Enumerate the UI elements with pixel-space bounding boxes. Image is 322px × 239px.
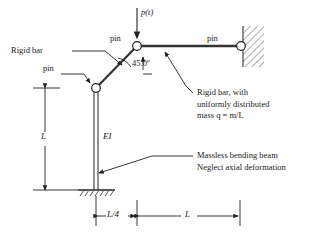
rigid-bar-note-line1: Rigid bar, with xyxy=(197,87,269,99)
dimension-vertical-label: L xyxy=(41,131,46,141)
pin-joint-column-top xyxy=(92,84,101,93)
beam-note: Massless bending beam Neglect axial defo… xyxy=(197,150,286,173)
load-label: p(t) xyxy=(141,7,153,17)
beam-note-line1: Massless bending beam xyxy=(197,150,286,162)
dimension-short-label: L/4 xyxy=(107,209,119,219)
leader-rigid-bar-left xyxy=(72,51,122,65)
column-bending-beam xyxy=(94,92,98,190)
dimension-long-label: L xyxy=(185,209,190,219)
leader-rigid-bar-right xyxy=(165,52,193,93)
dimension-vertical-L xyxy=(33,88,78,190)
wall-support xyxy=(243,26,264,67)
pin-label-apex: pin xyxy=(110,33,121,43)
rigid-bar-left-label: Rigid bar xyxy=(11,45,43,55)
pin-label-column-top: pin xyxy=(43,63,54,73)
pin-joint-apex xyxy=(133,42,142,51)
stiffness-label: EI xyxy=(103,131,112,141)
pin-joint-wall xyxy=(237,42,246,51)
pin-label-wall: pin xyxy=(207,33,218,43)
beam-note-line2: Neglect axial deformation xyxy=(197,162,286,174)
rigid-bar-note-line2: uniformly distributed xyxy=(197,99,269,111)
fixed-base-support xyxy=(78,190,115,196)
leader-massless-beam xyxy=(99,156,193,173)
rigid-bar-note: Rigid bar, with uniformly distributed ma… xyxy=(197,87,269,122)
angle-label: 45.0º xyxy=(132,58,150,68)
leader-pin-column-top xyxy=(61,74,90,83)
structural-diagram xyxy=(0,0,322,239)
rigid-bar-note-line3: mass q = m/L xyxy=(197,110,269,122)
